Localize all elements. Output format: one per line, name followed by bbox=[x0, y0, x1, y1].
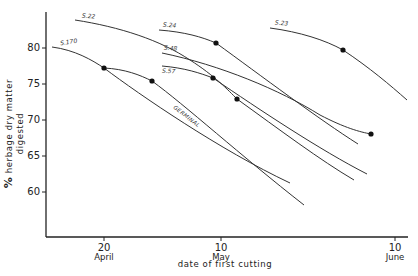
y-axis-title-text: herbage dry matter digested bbox=[4, 79, 25, 177]
month-label-april: April bbox=[84, 252, 124, 262]
label-s48: S.48 bbox=[164, 43, 178, 51]
y-axis-title-percent: % bbox=[2, 177, 15, 189]
marker-s170 bbox=[101, 65, 106, 70]
marker-germinal bbox=[149, 78, 154, 83]
marker-s23 bbox=[340, 47, 345, 52]
series-germinal-line bbox=[104, 68, 304, 205]
markers bbox=[101, 40, 373, 136]
marker-s24 bbox=[213, 40, 218, 45]
label-s22: S.22 bbox=[82, 11, 96, 19]
y-tick-label-80: 80 bbox=[16, 43, 40, 53]
y-axis-title: % herbage dry matter digested bbox=[2, 69, 25, 199]
series-s23-line bbox=[270, 28, 407, 100]
label-s24: S.24 bbox=[163, 20, 177, 28]
month-label-june: June bbox=[375, 252, 415, 262]
marker-s57 bbox=[210, 75, 215, 80]
label-s57: S.57 bbox=[162, 67, 176, 75]
digestibility-chart: 80 75 70 65 60 20 10 10 April May June d… bbox=[0, 0, 418, 276]
marker-s22 bbox=[234, 96, 239, 101]
series-s24-line bbox=[159, 30, 358, 144]
x-axis-title: date of first cutting bbox=[140, 259, 310, 269]
marker-s48 bbox=[368, 131, 373, 136]
label-s23: S.23 bbox=[275, 19, 289, 27]
